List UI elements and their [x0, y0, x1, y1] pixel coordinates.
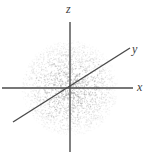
axis-label-x: x [137, 81, 142, 93]
axes-point-cloud-figure: z y x [0, 0, 156, 155]
axis-line-y [13, 48, 130, 122]
axis-label-z: z [66, 3, 71, 15]
axes-lines [0, 0, 156, 155]
axis-label-y: y [132, 43, 137, 55]
